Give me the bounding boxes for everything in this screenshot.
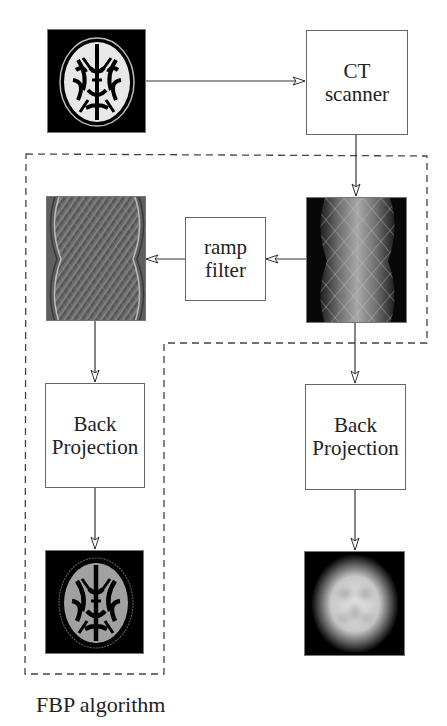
bp-plain-label-line2: Projection (312, 437, 398, 460)
back-projection-box-plain: Back Projection (305, 384, 406, 490)
bp-plain-label-line1: Back (312, 414, 398, 437)
blurry-brain-graphic (305, 552, 405, 656)
sinogram-image (306, 197, 407, 323)
bp-result-image (304, 551, 405, 656)
ramp-filter-label-line1: ramp (204, 236, 247, 259)
sinogram-graphic (307, 198, 407, 323)
reconstructed-brain-icon (46, 551, 144, 654)
ct-scanner-label-line2: scanner (325, 83, 389, 106)
fbp-result-image (45, 550, 144, 654)
phantom-image (47, 29, 146, 133)
brain-slice-icon (48, 30, 146, 133)
back-projection-box-fbp: Back Projection (45, 383, 145, 488)
ct-scanner-box: CT scanner (306, 30, 408, 135)
ct-scanner-label-line1: CT (325, 60, 389, 83)
ramp-filter-box: ramp filter (185, 217, 266, 301)
bp-fbp-label-line2: Projection (52, 436, 138, 459)
ramp-filter-label-line2: filter (204, 259, 247, 282)
bp-fbp-label-line1: Back (52, 413, 138, 436)
filtered-sinogram-image (46, 196, 146, 321)
fbp-group-label: FBP algorithm (36, 692, 165, 718)
filtered-sinogram-graphic (47, 197, 146, 321)
